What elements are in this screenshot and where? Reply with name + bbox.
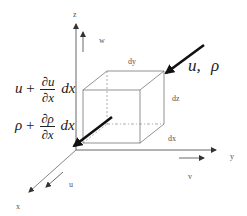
u-label: u	[69, 181, 73, 189]
diagram-graphics	[0, 0, 247, 216]
diagram-canvas: z y x w v u dy dz dx u, ρ u + ∂u ∂x dx ρ…	[0, 0, 247, 216]
y-axis-label: y	[230, 153, 234, 161]
z-axis-label: z	[73, 11, 77, 19]
cube-edge	[83, 71, 107, 90]
fraction-denominator: ∂x	[40, 127, 55, 141]
x-axis-label: x	[16, 203, 20, 211]
cube-edge	[140, 124, 164, 143]
w-label: w	[99, 37, 105, 45]
outflow-density-base: ρ	[15, 117, 22, 133]
partial-derivative-fraction: ∂ρ ∂x	[40, 112, 55, 141]
differential-dx: dx	[61, 117, 75, 133]
fraction-numerator: ∂ρ	[40, 112, 55, 127]
dz-label: dz	[172, 95, 180, 103]
plus-sign: +	[26, 117, 34, 133]
v-label: v	[188, 173, 192, 181]
cube-edge	[140, 71, 164, 90]
inflow-density-label: ρ	[211, 57, 219, 74]
cube-hidden-edge	[83, 124, 107, 143]
outflow-arrow	[74, 117, 112, 146]
fraction-numerator: ∂u	[40, 75, 55, 90]
dx-label: dx	[168, 135, 176, 143]
plus-sign: +	[26, 80, 34, 96]
fraction-denominator: ∂x	[40, 90, 55, 104]
outflow-velocity-expression: u + ∂u ∂x dx	[15, 75, 75, 104]
cube-back-edges	[107, 71, 164, 124]
dy-label: dy	[128, 58, 136, 66]
differential-dx: dx	[61, 80, 75, 96]
outflow-density-expression: ρ + ∂ρ ∂x dx	[15, 112, 75, 141]
partial-derivative-fraction: ∂u ∂x	[40, 75, 55, 104]
inflow-velocity-label: u,	[188, 57, 201, 74]
outflow-velocity-base: u	[15, 80, 23, 96]
